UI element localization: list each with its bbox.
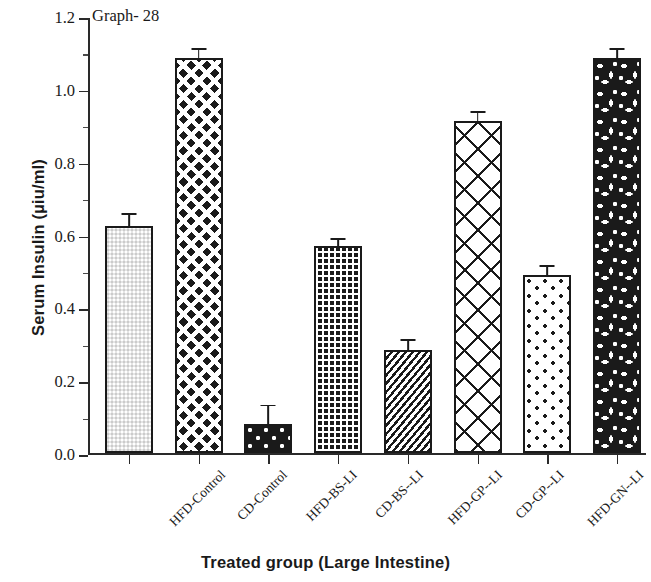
error-bar-cap [261, 405, 276, 407]
error-bar-cap [191, 48, 206, 50]
x-axis-tick-labels: HFD-ControlCD-ControlHFD-BS-LICD-BS--LIH… [88, 467, 646, 557]
error-bar-line [616, 50, 618, 58]
bar[interactable] [105, 226, 153, 454]
error-bar-cap [470, 111, 485, 113]
x-axis-line [88, 453, 646, 455]
y-tick-label: 0.4 [54, 301, 75, 318]
bar-slot [523, 16, 571, 453]
x-tick [547, 455, 548, 464]
y-tick-major [79, 382, 88, 384]
y-tick-major [79, 455, 88, 457]
error-bar-line [407, 341, 409, 349]
error-bar-line [547, 267, 549, 275]
error-bar-cap [121, 213, 136, 215]
error-bar-cap [331, 238, 346, 240]
y-tick-label: 0.0 [54, 447, 75, 464]
error-bar-line [268, 406, 270, 424]
chart-figure: Serum Insulin (µiu/ml) Graph- 28 1.21.00… [0, 0, 651, 582]
y-tick-major [79, 309, 88, 311]
y-tick-major [79, 91, 88, 93]
error-bar-line [337, 240, 339, 246]
error-bar-line [128, 215, 130, 226]
error-bar-line [198, 50, 200, 59]
y-tick-major [79, 164, 88, 166]
bar[interactable] [454, 121, 502, 453]
bar-slot [244, 16, 292, 453]
bar-slot [314, 16, 362, 453]
bar[interactable] [523, 275, 571, 453]
y-tick-major [79, 237, 88, 239]
error-bar-cap [400, 339, 415, 341]
plot-area: 1.21.00.80.60.40.20.0 [88, 18, 633, 455]
x-tick-label: CD-GP--LI [512, 467, 567, 522]
x-tick-label: HFD-BS-LI [303, 467, 360, 524]
error-bar-cap [610, 48, 625, 50]
y-axis-title: Serum Insulin (µiu/ml) [29, 98, 48, 398]
y-tick-label: 0.8 [54, 155, 75, 172]
y-tick-major [79, 18, 88, 20]
bar-slot [175, 16, 223, 453]
x-tick [617, 455, 618, 464]
x-tick [129, 455, 130, 464]
x-tick-label: CD-Control [234, 467, 291, 524]
error-bar-cap [540, 265, 555, 267]
x-tick-label: CD-BS--LI [372, 467, 427, 522]
x-tick [199, 455, 200, 464]
bar[interactable] [244, 424, 292, 453]
bar-slot [384, 16, 432, 453]
x-tick-label: HFD-GP--LI [445, 467, 506, 528]
y-tick-label: 0.6 [54, 228, 75, 245]
bar-slot [593, 16, 641, 453]
x-tick [408, 455, 409, 464]
y-tick-label: 1.2 [54, 10, 75, 27]
bar-slot [105, 16, 153, 453]
y-tick-label: 0.2 [54, 374, 75, 391]
x-tick [268, 455, 269, 464]
x-tick-label: HFD-GN--LI [585, 467, 648, 530]
bar[interactable] [384, 350, 432, 454]
error-bar-line [477, 113, 479, 121]
bar[interactable] [314, 246, 362, 454]
x-tick [478, 455, 479, 464]
bar-series [88, 18, 646, 453]
x-tick [338, 455, 339, 464]
x-axis-title: Treated group (Large Intestine) [0, 553, 651, 572]
bar[interactable] [593, 58, 641, 453]
x-tick-label: HFD-Control [166, 467, 229, 530]
y-tick-label: 1.0 [54, 83, 75, 100]
bar[interactable] [175, 58, 223, 453]
bar-slot [454, 16, 502, 453]
